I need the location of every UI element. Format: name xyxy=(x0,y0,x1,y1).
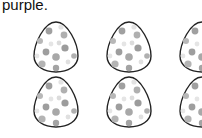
egg-4[interactable] xyxy=(34,77,78,127)
egg-3[interactable] xyxy=(180,22,202,72)
egg-2[interactable] xyxy=(107,22,151,72)
egg-5[interactable] xyxy=(107,77,151,127)
egg-grid xyxy=(0,0,202,138)
egg-6[interactable] xyxy=(180,77,202,127)
egg-1[interactable] xyxy=(34,22,78,72)
